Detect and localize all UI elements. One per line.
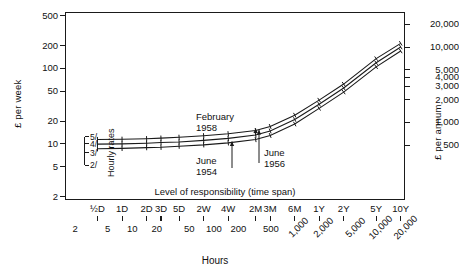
x-axis-timespan-label: 3M <box>264 204 277 214</box>
x-axis-timespan-label: 2W <box>197 204 211 214</box>
hourly-rates-label: Hourly rates <box>106 129 116 178</box>
x-axis-hours-label: 1,000 <box>287 216 311 240</box>
y-axis-title-left: £ per week <box>12 80 23 128</box>
x-axis-tick-mark <box>228 216 229 221</box>
x-axis-hours-label: 500 <box>263 224 279 234</box>
hourly-rate-tick-label: 2/ <box>90 161 97 170</box>
x-axis-timespan-label: 1D <box>116 204 128 214</box>
x-axis-tick-mark <box>179 216 180 221</box>
x-axis-timespan-label: 4W <box>221 204 235 214</box>
y-axis-left-tick-label: 500 <box>42 11 58 21</box>
y-axis-right-tick-label: 20,000 <box>413 20 459 30</box>
y-axis-right-tick-mark <box>405 86 410 87</box>
x-axis-hours-label: 200 <box>230 224 246 234</box>
hourly-rate-tick-mark <box>85 143 89 144</box>
x-axis-timespan-label: 2Y <box>338 204 350 214</box>
x-axis-tick-mark <box>343 216 344 221</box>
y-axis-title-right: £ per annum <box>432 104 443 160</box>
hourly-rates-axis-line <box>84 137 85 166</box>
x-axis-title-hours: Hours <box>202 255 229 266</box>
y-axis-right-tick-mark <box>405 69 410 70</box>
y-axis-left-tick-label: 200 <box>42 41 58 51</box>
x-axis-hours-label: 2 <box>73 224 78 234</box>
x-axis-title-timespan: Level of responsibility (time span) <box>155 186 296 197</box>
y-axis-left-tick-mark <box>60 166 65 167</box>
y-axis-left-tick-label: 50 <box>47 86 58 96</box>
hourly-rate-tick-label: 3/ <box>90 149 97 158</box>
plot-area <box>65 12 405 200</box>
y-axis-left-tick-mark <box>60 91 65 92</box>
x-axis-hours-label: 50 <box>184 224 195 234</box>
y-axis-left-tick-mark <box>60 15 65 16</box>
x-axis-hours-label: 5,000 <box>344 216 368 240</box>
y-axis-right-tick-label: 2,000 <box>413 95 459 105</box>
y-axis-right-tick-mark <box>405 47 410 48</box>
x-axis-hours-label: 10,000 <box>367 214 394 241</box>
hourly-rate-tick-mark <box>85 136 89 137</box>
y-axis-right-tick-mark <box>405 24 410 25</box>
y-axis-left-tick-label: 10 <box>47 139 58 149</box>
x-axis-hours-label: 20,000 <box>391 214 418 241</box>
annotation-february-1958-line1: February <box>196 112 234 123</box>
x-axis-tick-mark <box>160 216 161 221</box>
y-axis-left-tick-mark <box>60 121 65 122</box>
x-axis-tick-mark <box>270 216 271 221</box>
annotation-june-1954: June 1954 <box>196 156 217 177</box>
annotation-june-1954-line1: June <box>196 156 217 167</box>
x-axis-timespan-label: 2M <box>249 204 262 214</box>
hourly-rate-tick-mark <box>85 152 89 153</box>
annotation-february-1958-line2: 1958 <box>196 123 234 134</box>
y-axis-left-tick-mark <box>60 68 65 69</box>
y-axis-left-tick-mark <box>60 196 65 197</box>
x-axis-tick-mark <box>376 216 377 221</box>
y-axis-right-tick-mark <box>405 99 410 100</box>
x-axis-tick-mark <box>97 216 98 221</box>
y-axis-left-tick-label: 5 <box>53 162 58 172</box>
x-axis-tick-mark <box>203 216 204 221</box>
x-axis-tick-mark <box>146 216 147 221</box>
hourly-rate-tick-mark <box>85 165 89 166</box>
y-axis-right-tick-label: 1,000 <box>413 118 459 128</box>
y-axis-right-tick-mark <box>405 122 410 123</box>
y-axis-right-tick-label: 500 <box>413 140 459 150</box>
annotation-june-1954-line2: 1954 <box>196 167 217 178</box>
x-axis-tick-mark <box>400 216 401 221</box>
x-axis-hours-label: 2,000 <box>312 216 336 240</box>
x-axis-timespan-label: 5Y <box>370 204 382 214</box>
y-axis-right-tick-mark <box>405 77 410 78</box>
x-axis-timespan-label: 3D <box>155 204 167 214</box>
x-axis-hours-label: 20 <box>152 224 163 234</box>
annotation-june-1956-line2: 1956 <box>264 159 285 170</box>
y-axis-right-tick-label: 3,000 <box>413 82 459 92</box>
x-axis-timespan-label: 1Y <box>313 204 325 214</box>
x-axis-hours-label: 5 <box>105 224 110 234</box>
annotation-february-1958: February 1958 <box>196 112 234 133</box>
x-axis-tick-mark <box>122 216 123 221</box>
x-axis-hours-label: 100 <box>206 224 222 234</box>
x-axis-tick-mark <box>319 216 320 221</box>
y-axis-left-tick-label: 20 <box>47 116 58 126</box>
x-axis-tick-mark <box>255 216 256 221</box>
y-axis-left-tick-label: 100 <box>42 64 58 74</box>
x-axis-timespan-label: 2D <box>141 204 153 214</box>
y-axis-left-tick-label: 2 <box>53 192 58 202</box>
x-axis-tick-mark <box>294 216 295 221</box>
annotation-june-1956-line1: June <box>264 148 285 159</box>
x-axis-timespan-label: ½D <box>90 204 105 214</box>
y-axis-right-tick-label: 10,000 <box>413 42 459 52</box>
x-axis-timespan-label: 5D <box>173 204 185 214</box>
x-axis-timespan-label: 6M <box>288 204 301 214</box>
x-axis-hours-label: 10 <box>127 224 138 234</box>
x-axis-timespan-label: 10Y <box>392 204 409 214</box>
annotation-june-1956: June 1956 <box>264 148 285 169</box>
y-axis-left-tick-mark <box>60 45 65 46</box>
y-axis-left-tick-mark <box>60 143 65 144</box>
y-axis-right-tick-mark <box>405 145 410 146</box>
